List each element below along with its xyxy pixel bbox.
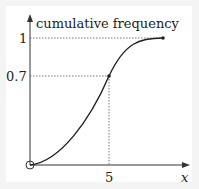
- y-tick-1: 1: [19, 32, 27, 45]
- y-axis-label: cumulative frequency: [36, 17, 179, 30]
- ogive-curve: [30, 38, 163, 165]
- point-end: [161, 36, 165, 40]
- point-5-07: [107, 74, 111, 78]
- y-axis-arrow-icon: [27, 14, 33, 22]
- x-tick-5: 5: [105, 171, 113, 184]
- x-axis-arrow-icon: [182, 162, 190, 168]
- x-axis-label: x: [181, 171, 188, 184]
- y-tick-0.7: 0.7: [6, 70, 27, 83]
